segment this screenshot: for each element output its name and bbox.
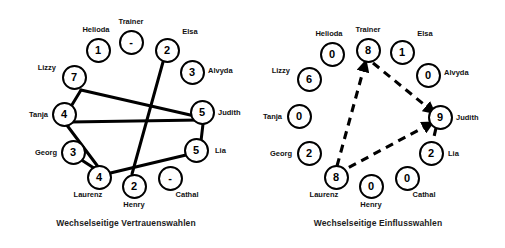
node-alvyda[interactable]: 3 (180, 60, 205, 85)
node-label-henry: Henry (123, 200, 144, 209)
node-value-georg: 3 (63, 142, 84, 163)
panel-vertrauenswahlen: -Trainer1Helioda2Elsa7Lizzy3Alvyda4Tanja… (0, 0, 252, 248)
sociogram-right: 8Trainer0Helioda1Elsa6Lizzy0Alvyda0Tanja… (252, 0, 504, 215)
node-laurenz[interactable]: 4 (87, 165, 112, 190)
node-laurenz[interactable]: 8 (324, 165, 349, 190)
node-label-lia: Lia (215, 146, 226, 155)
node-value-elsa: 1 (392, 42, 413, 63)
node-value-lia: 2 (421, 143, 442, 164)
edge-judith-lia (433, 128, 436, 141)
node-value-lizzy: 6 (299, 69, 320, 90)
node-label-tanja: Tanja (263, 112, 282, 121)
node-georg[interactable]: 2 (297, 141, 322, 166)
node-label-lizzy: Lizzy (38, 63, 56, 72)
node-value-georg: 2 (299, 143, 320, 164)
node-label-elsa: Elsa (417, 29, 432, 38)
node-tanja[interactable]: 4 (52, 102, 77, 127)
node-label-lizzy: Lizzy (272, 66, 290, 75)
node-value-alvyda: 0 (418, 65, 439, 86)
node-georg[interactable]: 3 (61, 140, 86, 165)
node-value-trainer: 8 (358, 40, 379, 61)
node-trainer[interactable]: 8 (356, 38, 381, 63)
node-helioda[interactable]: 1 (86, 38, 111, 63)
node-value-judith: 5 (192, 102, 213, 123)
node-value-laurenz: 8 (326, 167, 347, 188)
node-label-tanja: Tanja (29, 110, 48, 119)
node-cathal[interactable]: - (158, 166, 183, 191)
node-label-georg: Georg (35, 148, 57, 157)
node-lia[interactable]: 2 (419, 141, 444, 166)
node-value-helioda: 0 (322, 44, 343, 65)
node-label-trainer: Trainer (355, 25, 380, 34)
node-lizzy[interactable]: 7 (62, 65, 87, 90)
edge-laurenz-trainer (337, 64, 365, 166)
node-lia[interactable]: 5 (184, 138, 209, 163)
node-judith[interactable]: 5 (190, 100, 215, 125)
node-label-laurenz: Laurenz (74, 190, 103, 199)
edge-tanja-judith (70, 120, 200, 122)
node-value-henry: 0 (361, 176, 382, 197)
caption-left: Wechselseitige Vertrauenswahlen (0, 218, 252, 228)
node-value-laurenz: 4 (89, 167, 110, 188)
node-value-tanja: 0 (289, 106, 310, 127)
node-label-laurenz: Laurenz (310, 190, 339, 199)
node-lizzy[interactable]: 6 (297, 67, 322, 92)
node-label-alvyda: Alvyda (208, 66, 233, 75)
node-value-trainer: - (121, 32, 142, 53)
node-judith[interactable]: 9 (428, 105, 453, 130)
node-value-helioda: 1 (88, 40, 109, 61)
node-value-henry: 2 (124, 176, 145, 197)
node-label-elsa: Elsa (182, 27, 197, 36)
node-label-georg: Georg (270, 149, 292, 158)
node-trainer[interactable]: - (119, 30, 144, 55)
node-henry[interactable]: 0 (359, 174, 384, 199)
edge-judith-laurenz (344, 124, 430, 170)
node-label-judith: Judith (218, 108, 241, 117)
node-value-elsa: 2 (157, 40, 178, 61)
node-helioda[interactable]: 0 (320, 42, 345, 67)
node-label-helioda: Helioda (82, 25, 109, 34)
node-label-cathal: Cathal (413, 190, 436, 199)
node-label-lia: Lia (448, 149, 459, 158)
edge-lizzy-judith (81, 90, 199, 117)
node-cathal[interactable]: 0 (395, 166, 420, 191)
node-value-judith: 9 (430, 107, 451, 128)
node-elsa[interactable]: 1 (390, 40, 415, 65)
node-value-cathal: 0 (397, 168, 418, 189)
node-label-alvyda: Alvyda (444, 68, 469, 77)
node-value-alvyda: 3 (182, 62, 203, 83)
caption-right: Wechselseitige Einflusswahlen (252, 218, 504, 228)
edge-elsa-henry (132, 62, 163, 174)
node-label-judith: Judith (456, 113, 479, 122)
node-value-cathal: - (160, 168, 181, 189)
node-label-helioda: Helioda (315, 29, 342, 38)
node-value-lia: 5 (186, 140, 207, 161)
node-label-cathal: Cathal (176, 190, 199, 199)
sociogram-left: -Trainer1Helioda2Elsa7Lizzy3Alvyda4Tanja… (0, 0, 252, 215)
node-elsa[interactable]: 2 (155, 38, 180, 63)
panel-einflusswahlen: 8Trainer0Helioda1Elsa6Lizzy0Alvyda0Tanja… (252, 0, 504, 248)
node-value-lizzy: 7 (64, 67, 85, 88)
node-label-trainer: Trainer (118, 17, 143, 26)
node-value-tanja: 4 (54, 104, 75, 125)
node-label-henry: Henry (360, 200, 381, 209)
node-henry[interactable]: 2 (122, 174, 147, 199)
node-tanja[interactable]: 0 (287, 104, 312, 129)
node-alvyda[interactable]: 0 (416, 63, 441, 88)
sociogram-figure: -Trainer1Helioda2Elsa7Lizzy3Alvyda4Tanja… (0, 0, 505, 248)
